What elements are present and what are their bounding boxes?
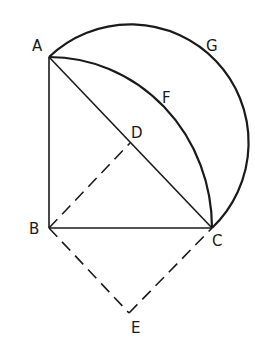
label-F: F bbox=[162, 89, 171, 107]
label-G: G bbox=[206, 37, 218, 55]
segment-EC bbox=[129, 228, 212, 313]
segment-BD bbox=[49, 143, 130, 228]
segment-BE bbox=[49, 228, 129, 313]
label-B: B bbox=[29, 220, 39, 238]
label-C: C bbox=[212, 232, 222, 250]
label-D: D bbox=[131, 124, 143, 142]
segment-AC bbox=[49, 57, 212, 228]
label-E: E bbox=[131, 319, 140, 337]
label-A: A bbox=[32, 37, 43, 55]
geometry-diagram: A B C D E F G bbox=[0, 0, 255, 349]
